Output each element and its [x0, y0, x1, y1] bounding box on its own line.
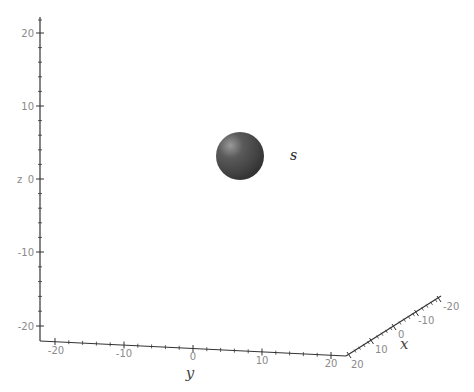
x-tick-neg20: -20	[443, 301, 459, 312]
y-axis: -20 -10 0 10 20 y	[40, 338, 346, 382]
data-point-s: s	[216, 132, 297, 180]
y-tick-neg20: -20	[48, 345, 64, 356]
y-tick-neg10: -10	[116, 348, 132, 359]
y-tick-20: 20	[325, 358, 338, 369]
3d-plot: 20 10 0 -10 -20 z -20 -10 0 10	[0, 0, 474, 392]
x-tick-10: 10	[375, 344, 388, 355]
y-axis-title: y	[185, 364, 195, 382]
x-tick-neg10: -10	[418, 315, 434, 326]
x-axis: 20 10 0 -10 -20 x	[346, 296, 459, 370]
z-axis: 20 10 0 -10 -20 z	[17, 17, 44, 341]
y-tick-10: 10	[256, 355, 269, 366]
z-tick-0: 0	[28, 174, 34, 185]
x-axis-title: x	[400, 335, 409, 353]
y-tick-0: 0	[190, 351, 196, 362]
z-tick-neg10: -10	[18, 247, 34, 258]
z-tick-neg20: -20	[18, 321, 34, 332]
point-label-s: s	[290, 147, 297, 163]
z-tick-20: 20	[21, 28, 34, 39]
cropped-caption-fragment	[0, 388, 474, 392]
z-tick-10: 10	[21, 101, 34, 112]
z-axis-title: z	[17, 174, 22, 185]
sphere-marker	[216, 132, 264, 180]
x-tick-20: 20	[351, 359, 364, 370]
